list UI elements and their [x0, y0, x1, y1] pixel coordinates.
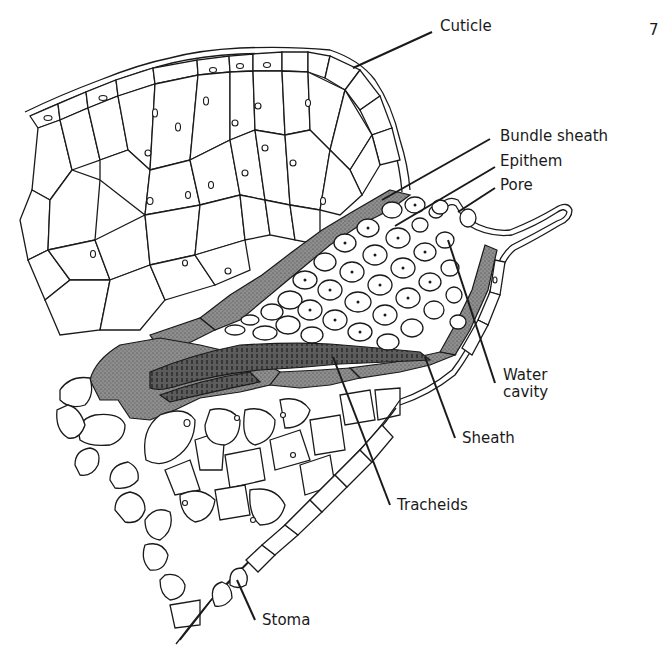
label-sheath: Sheath: [462, 430, 515, 447]
label-edge-fragment: 7: [649, 22, 659, 39]
label-tracheids: Tracheids: [397, 497, 468, 514]
label-stoma: Stoma: [262, 612, 310, 629]
label-bundle-sheath: Bundle sheath: [500, 128, 608, 145]
label-water-cavity-line1: Water: [503, 367, 548, 384]
label-water-cavity-line2: cavity: [503, 384, 548, 401]
leader-bundle-sheath: [382, 139, 490, 200]
leader-pore: [458, 188, 495, 212]
leader-epithem: [395, 167, 495, 226]
leader-stoma: [237, 580, 255, 620]
leader-sheath: [425, 357, 455, 438]
lower-tissue: [57, 378, 400, 645]
leader-cuticle: [353, 32, 432, 68]
label-water-cavity: Water cavity: [503, 367, 548, 401]
label-epithem: Epithem: [500, 153, 562, 170]
label-pore: Pore: [500, 177, 533, 194]
label-cuticle: Cuticle: [440, 18, 492, 35]
